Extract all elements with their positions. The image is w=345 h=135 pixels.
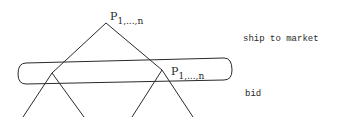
branch-root-left: [52, 23, 106, 73]
stage-label-bid: bid: [245, 89, 261, 99]
root-branches: [52, 23, 162, 73]
stage-label-ship-to-market: ship to market: [243, 34, 319, 44]
branch-left-right: [52, 73, 84, 117]
branch-root-right: [106, 23, 162, 70]
root-node-label: P1,...,n: [110, 10, 143, 26]
branch-left-left: [23, 73, 52, 117]
branch-right-left: [132, 70, 162, 117]
game-tree-diagram: P1,...,n P1,...,n ship to market bid: [0, 0, 345, 135]
infoset-node-label: P1,...,n: [171, 65, 204, 81]
leaf-branches: [23, 70, 193, 117]
